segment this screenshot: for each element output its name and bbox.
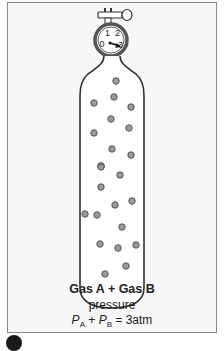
gauge-label-2: 2 [115, 28, 120, 38]
equation-result: = 3atm [112, 313, 152, 327]
gas-cylinder-outline [80, 56, 144, 308]
valve-icon [98, 8, 132, 24]
plus-sign: + [85, 313, 99, 327]
gauge-label-1: 1 [105, 28, 110, 38]
caption-title: Gas A + Gas B [7, 282, 217, 296]
gauge-label-0: 0 [100, 39, 105, 49]
corner-marker-icon [6, 335, 22, 351]
caption-subtitle: pressure [7, 298, 217, 312]
pressure-equation: PA + PB = 3atm [7, 313, 217, 329]
pressure-gauge-icon: 0 1 2 3 [95, 24, 127, 56]
pb-symbol: P [99, 313, 107, 327]
pa-symbol: P [72, 313, 80, 327]
